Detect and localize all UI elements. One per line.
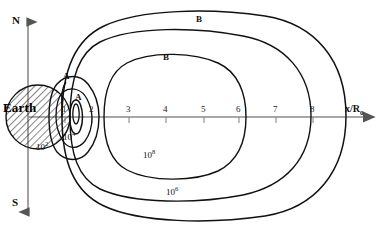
contour-label-10e6: 106: [166, 185, 178, 197]
x-tick-label-8: 8: [310, 104, 315, 114]
region-a-upper-label: A: [63, 71, 70, 81]
earth-label: Earth: [3, 100, 37, 116]
region-a-inner-label: A: [75, 92, 82, 102]
x-tick-label-6: 6: [236, 104, 241, 114]
contour-label-10e8: 108: [143, 148, 155, 160]
x-axis-label: x/R0: [345, 103, 364, 117]
x-tick-label-1: 1: [62, 104, 67, 114]
contour-label-10e4: 104: [63, 130, 75, 142]
south-label: S: [12, 196, 18, 208]
region-b-inner-label: B: [163, 52, 169, 62]
x-tick-label-5: 5: [201, 104, 206, 114]
contour-core-ellipse-inner: [73, 104, 79, 124]
x-tick-label-3: 3: [126, 104, 131, 114]
contour-diagram: [0, 0, 390, 231]
region-b-outer-label: B: [196, 14, 202, 24]
contour-label-10e2: 102: [36, 140, 48, 152]
x-tick-label-7: 7: [273, 104, 278, 114]
north-label: N: [12, 14, 20, 26]
x-tick-label-4: 4: [163, 104, 168, 114]
x-axis-ticks: [65, 117, 313, 123]
x-tick-label-2: 2: [89, 104, 94, 114]
